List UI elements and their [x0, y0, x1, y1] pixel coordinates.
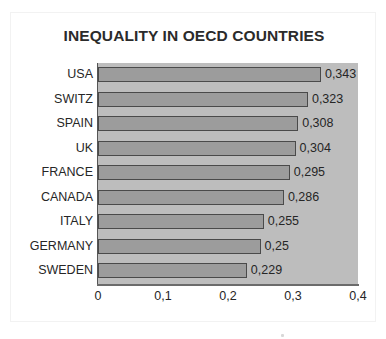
bar: [98, 92, 308, 107]
x-tick-label: 0,3: [273, 289, 313, 303]
bar-value-label: 0,255: [264, 214, 299, 229]
category-label: GERMANY: [11, 239, 93, 254]
bar-value-label: 0,323: [308, 92, 343, 107]
chart-frame: INEQUALITY IN OECD COUNTRIES 0,3430,3230…: [10, 12, 376, 322]
bar: [98, 190, 284, 205]
scan-artifact: [281, 334, 284, 337]
plot-area: 0,3430,3230,3080,3040,2950,2860,2550,250…: [98, 63, 358, 284]
category-label: SWEDEN: [11, 263, 93, 278]
bar: [98, 141, 296, 156]
x-tick-label: 0,4: [338, 289, 378, 303]
category-axis-labels: USASWITZSPAINUKFRANCECANADAITALYGERMANYS…: [11, 63, 93, 284]
x-tick-label: 0,2: [208, 289, 248, 303]
bar-row: 0,323: [98, 88, 358, 113]
chart-title: INEQUALITY IN OECD COUNTRIES: [11, 27, 377, 45]
bar: [98, 116, 298, 131]
category-label: UK: [11, 141, 93, 156]
category-label: CANADA: [11, 190, 93, 205]
bar: [98, 165, 290, 180]
bar-value-label: 0,25: [261, 239, 289, 254]
bar: [98, 239, 261, 254]
bar: [98, 263, 247, 278]
category-label: SWITZ: [11, 92, 93, 107]
x-tick-label: 0: [78, 289, 118, 303]
bar-value-label: 0,343: [321, 67, 356, 82]
bar-row: 0,255: [98, 210, 358, 235]
bar-row: 0,25: [98, 235, 358, 260]
bar-value-label: 0,295: [290, 165, 325, 180]
bar-value-label: 0,286: [284, 190, 319, 205]
category-label: USA: [11, 67, 93, 82]
value-axis-line: [97, 284, 359, 286]
bar-row: 0,295: [98, 161, 358, 186]
bar-value-label: 0,229: [247, 263, 282, 278]
category-label: SPAIN: [11, 116, 93, 131]
bar: [98, 67, 321, 82]
bar-value-label: 0,304: [296, 141, 331, 156]
x-tick-label: 0,1: [143, 289, 183, 303]
value-axis-tick-labels: 00,10,20,30,4: [11, 289, 377, 309]
bar-row: 0,343: [98, 63, 358, 88]
bar-value-label: 0,308: [298, 116, 333, 131]
bar-row: 0,304: [98, 137, 358, 162]
bar-row: 0,286: [98, 186, 358, 211]
bar-row: 0,308: [98, 112, 358, 137]
category-label: ITALY: [11, 214, 93, 229]
category-label: FRANCE: [11, 165, 93, 180]
bar-row: 0,229: [98, 259, 358, 284]
bar: [98, 214, 264, 229]
